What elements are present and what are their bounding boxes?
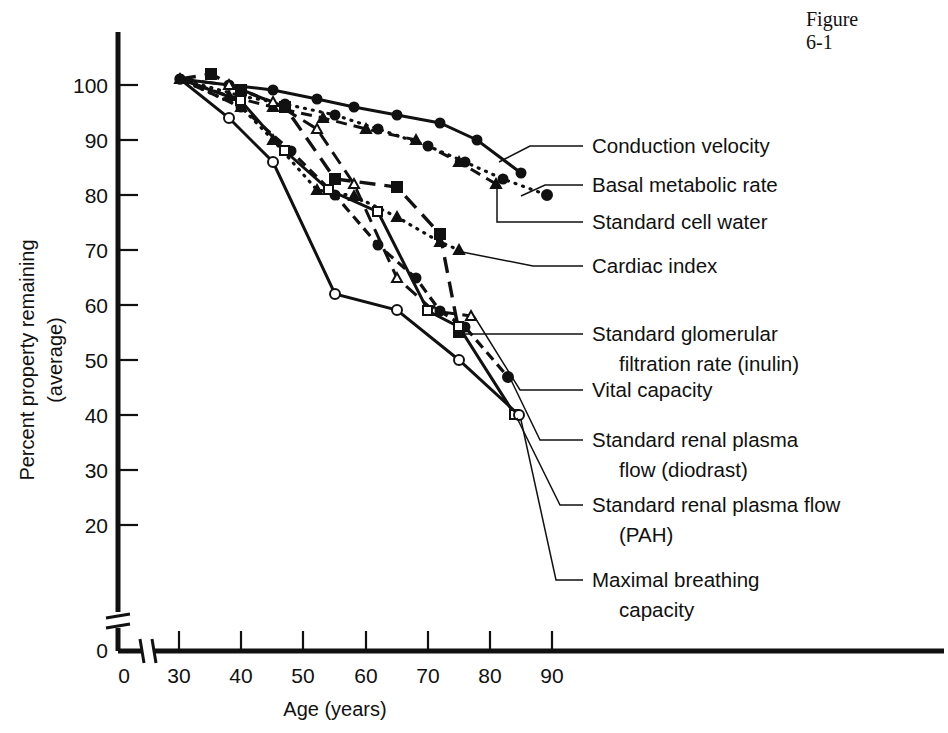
callout-label-conduction-velocity: Conduction velocity xyxy=(592,134,771,157)
callout-label-standard-glomerular-filtration-rate: Standard glomerular xyxy=(592,322,778,345)
data-point xyxy=(392,273,402,282)
data-point xyxy=(224,113,234,123)
data-point xyxy=(454,355,464,365)
data-point xyxy=(517,169,526,178)
y-axis-title-line1: Percent property remaining xyxy=(16,239,38,480)
x-tick-label-60: 60 xyxy=(354,664,377,687)
figure-root: Figure 6-1 xyxy=(0,0,948,733)
callout-label-standard-renal-plasma-flow-diodrast-line2: flow (diodrast) xyxy=(619,458,748,481)
y-axis xyxy=(106,32,130,651)
series-line-cardiac-index xyxy=(180,79,459,250)
data-point xyxy=(393,111,402,120)
data-point xyxy=(330,174,340,184)
y-tick-label-20: 20 xyxy=(85,514,108,537)
y-axis-break-lower xyxy=(106,624,130,628)
data-point xyxy=(466,311,476,320)
x-tick-label-40: 40 xyxy=(229,664,252,687)
callout-label-cardiac-index: Cardiac index xyxy=(592,254,718,277)
callout-labels: Conduction velocity Basal metabolic rate… xyxy=(592,134,841,621)
callout-label-standard-cell-water: Standard cell water xyxy=(592,210,768,233)
data-point xyxy=(514,410,524,420)
data-point xyxy=(206,69,216,79)
y-tick-label-50: 50 xyxy=(85,349,108,372)
y-axis-break-upper xyxy=(106,614,130,618)
y-tick-label-40: 40 xyxy=(85,404,108,427)
y-tick-label-0: 0 xyxy=(96,639,108,662)
callout-label-basal-metabolic-rate: Basal metabolic rate xyxy=(592,173,778,196)
data-point xyxy=(542,190,552,200)
data-point xyxy=(269,86,278,95)
y-tick-label-80: 80 xyxy=(85,184,108,207)
data-point xyxy=(361,124,371,133)
data-point xyxy=(350,103,359,112)
series-line-maximal-breathing-capacity xyxy=(180,79,519,415)
data-point xyxy=(280,146,289,155)
x-tick-label-80: 80 xyxy=(478,664,501,687)
data-point xyxy=(330,289,340,299)
x-tick-labels: 0 30 40 50 60 70 80 90 xyxy=(118,664,564,687)
data-point xyxy=(499,175,508,184)
data-point xyxy=(392,182,402,192)
data-point xyxy=(268,97,278,106)
x-tick-label-90: 90 xyxy=(540,664,563,687)
data-point xyxy=(236,96,245,105)
leader-cardiac-index xyxy=(462,252,583,266)
data-point xyxy=(373,207,382,216)
callout-label-maximal-breathing-capacity-line2: capacity xyxy=(619,598,695,621)
data-point xyxy=(324,185,333,194)
callout-label-vital-capacity: Vital capacity xyxy=(592,378,713,401)
y-ticks xyxy=(118,85,138,525)
data-point xyxy=(236,85,246,95)
data-point xyxy=(318,113,328,122)
callout-label-standard-renal-plasma-flow-pah: Standard renal plasma flow xyxy=(592,493,841,516)
callout-label-standard-renal-plasma-flow-pah-line2: (PAH) xyxy=(619,523,673,546)
x-tick-label-50: 50 xyxy=(291,664,314,687)
series-cardiac-index xyxy=(180,79,464,254)
callout-leaders xyxy=(460,146,583,580)
y-tick-label-60: 60 xyxy=(85,294,108,317)
data-point xyxy=(374,241,383,250)
data-point xyxy=(392,212,402,221)
callout-label-standard-glomerular-filtration-rate-line2: filtration rate (inulin) xyxy=(619,352,799,375)
y-axis-title-line2: (average) xyxy=(44,317,66,403)
y-tick-labels: 100 90 80 70 60 50 40 30 20 0 xyxy=(73,74,108,662)
leader-standard-renal-plasma-flow-pah xyxy=(517,418,583,505)
series-standard-cell-water xyxy=(175,74,501,188)
data-point xyxy=(473,136,482,145)
y-tick-label-100: 100 xyxy=(73,74,108,97)
y-tick-label-70: 70 xyxy=(85,239,108,262)
x-tick-label-0: 0 xyxy=(118,664,130,687)
data-point xyxy=(313,95,322,104)
x-ticks xyxy=(179,631,552,651)
data-point xyxy=(423,306,432,315)
leader-conduction-velocity xyxy=(499,146,583,162)
data-point xyxy=(454,322,463,331)
x-axis-title: Age (years) xyxy=(283,698,386,720)
callout-label-maximal-breathing-capacity: Maximal breathing xyxy=(592,568,760,591)
series-maximal-breathing-capacity xyxy=(180,79,524,420)
y-tick-label-90: 90 xyxy=(85,129,108,152)
data-point xyxy=(331,111,340,120)
data-point xyxy=(392,305,402,315)
x-tick-label-30: 30 xyxy=(167,664,190,687)
callout-label-standard-renal-plasma-flow-diodrast: Standard renal plasma xyxy=(592,428,799,451)
data-point xyxy=(411,135,421,144)
chart-canvas: 100 90 80 70 60 50 40 30 20 0 0 30 40 50 xyxy=(0,0,948,733)
y-tick-label-30: 30 xyxy=(85,459,108,482)
data-point xyxy=(268,157,278,167)
data-point xyxy=(436,119,445,128)
data-point xyxy=(435,229,445,239)
x-axis-break-left xyxy=(140,639,144,663)
x-tick-label-70: 70 xyxy=(416,664,439,687)
